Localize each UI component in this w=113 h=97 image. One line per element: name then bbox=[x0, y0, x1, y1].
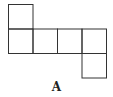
diagram-label: A bbox=[0, 80, 113, 94]
net-square bbox=[9, 29, 34, 54]
net-square bbox=[58, 29, 83, 54]
net-square bbox=[9, 5, 34, 30]
net-square bbox=[82, 29, 107, 54]
net-square bbox=[82, 54, 107, 79]
net-square bbox=[33, 29, 58, 54]
